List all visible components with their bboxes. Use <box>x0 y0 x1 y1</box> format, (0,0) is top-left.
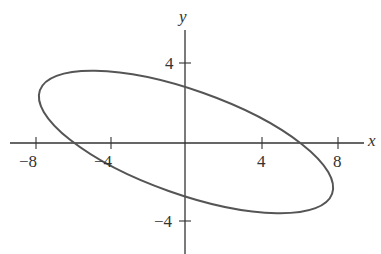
x-tick-label: 8 <box>333 153 342 170</box>
x-tick-label: −8 <box>19 153 37 170</box>
y-tick-label: 4 <box>165 55 174 72</box>
x-tick-label: 4 <box>257 153 266 170</box>
ellipse-curve <box>23 41 350 243</box>
x-tick-label: −4 <box>94 153 112 170</box>
y-axis-label: y <box>179 8 187 25</box>
y-tick-label: −4 <box>154 213 172 230</box>
plot-area <box>0 0 381 254</box>
x-axis-label: x <box>368 132 376 149</box>
